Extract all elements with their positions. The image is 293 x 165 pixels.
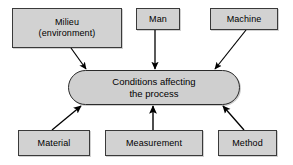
cause-and-effect-diagram: Milieu (environment) Man Machine Conditi… xyxy=(0,0,293,165)
cause-node-measurement-label: Measurement xyxy=(126,138,182,149)
arrow-material-to-center xyxy=(52,106,81,130)
cause-node-milieu-label: Milieu (environment) xyxy=(39,17,96,39)
effect-node-center[interactable]: Conditions affecting the process xyxy=(68,70,240,105)
cause-node-man-label: Man xyxy=(149,14,167,25)
cause-node-machine-label: Machine xyxy=(227,14,262,25)
cause-node-material-label: Material xyxy=(38,138,71,149)
cause-node-machine[interactable]: Machine xyxy=(210,8,278,30)
cause-node-man[interactable]: Man xyxy=(136,8,180,30)
cause-node-material[interactable]: Material xyxy=(18,130,90,156)
cause-node-measurement[interactable]: Measurement xyxy=(105,130,203,156)
arrow-machine-to-center xyxy=(215,30,246,69)
effect-node-center-label: Conditions affecting the process xyxy=(112,76,195,99)
arrow-method-to-center xyxy=(223,106,244,130)
cause-node-milieu[interactable]: Milieu (environment) xyxy=(12,8,122,48)
cause-node-method[interactable]: Method xyxy=(218,130,277,156)
cause-node-method-label: Method xyxy=(232,138,263,149)
arrow-milieu-to-center xyxy=(71,48,86,69)
